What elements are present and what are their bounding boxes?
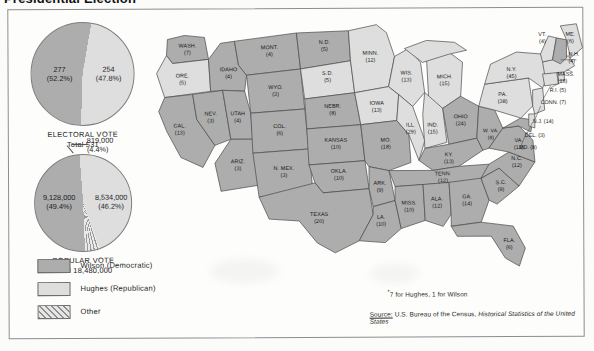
svg-text:UTAH: UTAH [230,110,245,116]
legend-swatch-wilson [37,258,70,272]
state-label-new-hampshire: N.H. [568,51,579,57]
svg-text:(29): (29) [406,128,416,134]
svg-text:N.Y.: N.Y. [506,66,516,72]
state-label-indiana: IND.(15) [427,121,438,134]
svg-text:(13): (13) [175,129,185,135]
svg-text:(4): (4) [225,73,232,79]
svg-text:MISS.: MISS. [402,199,417,205]
svg-text:(12): (12) [365,57,375,63]
svg-text:OHIO: OHIO [454,113,468,119]
state-label-new-york: N.Y.(45) [506,66,516,79]
svg-text:FLA.: FLA. [503,237,515,243]
svg-text:(6): (6) [567,38,574,44]
popular-other-leader-diagonal [66,145,73,153]
svg-text:IOWA: IOWA [369,100,384,106]
svg-text:KANSAS: KANSAS [325,137,348,143]
source-prefix: Source: [370,311,393,318]
svg-text:ARIZ.: ARIZ. [231,158,245,164]
scan-artifact-2 [369,263,419,283]
svg-text:(4): (4) [539,38,546,44]
svg-text:MO.: MO. [381,137,392,143]
svg-text:N.D.: N.D. [319,39,330,45]
svg-text:(3): (3) [281,172,288,178]
legend-label-other: Other [81,307,101,316]
popular-wilson-label: 9,128,000(49.4%) [31,193,87,211]
state-label-delaware: DEL. (3) [525,132,545,138]
svg-text:MICH.: MICH. [437,73,453,79]
svg-text:WYO.: WYO. [268,84,283,90]
svg-text:OKLA.: OKLA. [331,168,347,174]
svg-text:N. MEX.: N. MEX. [274,165,295,171]
svg-text:(13): (13) [372,107,382,113]
svg-text:(3): (3) [272,91,279,97]
legend-swatch-other [38,304,71,318]
source-line: Source: U.S. Bureau of the Census, Histo… [370,310,584,325]
electoral-hughes-label: 254(47.8%) [87,65,131,83]
state-label-missouri: MO.(18) [381,137,392,150]
map-frame: 277(52.2%) 254(47.8%) ELECTORAL VOTE Tot… [7,7,584,340]
state-label-massachusetts: MASS. [558,71,575,77]
svg-text:(20): (20) [314,218,324,224]
svg-text:(4): (4) [266,51,273,57]
svg-text:(3): (3) [207,117,214,123]
election-map-page: Presidential Election 277(52.2%) 254(47.… [0,0,594,351]
svg-text:(13): (13) [402,76,412,82]
svg-text:(10): (10) [331,144,341,150]
state-florida [451,222,525,266]
svg-text:(9): (9) [377,187,384,193]
svg-text:(10): (10) [404,206,414,212]
state-label-california: CAL.(13) [174,122,186,135]
legend-swatch-hughes [37,281,70,295]
state-label-illinois: ILL.(29) [406,121,416,134]
footnote: *7 for Hughes, 1 for Wilson [388,288,468,297]
state-label-maryland: MD. (8) [519,144,537,150]
svg-text:COL.: COL. [273,123,286,129]
svg-text:VT.: VT. [538,31,546,37]
popular-other-leader [72,144,88,145]
svg-text:(45): (45) [507,73,517,79]
svg-text:MINN.: MINN. [363,50,379,56]
svg-text:(6): (6) [506,244,513,250]
state-label-georgia: GA.(14) [462,193,472,206]
svg-text:TEXAS: TEXAS [310,211,329,217]
svg-text:(4): (4) [234,117,241,123]
svg-text:IDAHO: IDAHO [220,66,238,72]
us-election-map: WASH.(7) ORE.(5) CAL.(13) NEV.(3) IDAHO(… [136,14,585,288]
svg-text:ALA.: ALA. [431,195,443,201]
svg-text:WIS.: WIS. [401,69,413,75]
svg-text:WASH.: WASH. [178,42,196,48]
svg-text:MONT.: MONT. [261,44,278,50]
svg-text:IND.: IND. [427,121,438,127]
svg-text:PA.: PA. [498,91,507,97]
svg-text:KY.: KY. [445,151,453,157]
svg-text:(13): (13) [444,158,454,164]
svg-text:(8): (8) [329,110,336,116]
page-title: Presidential Election [4,0,136,6]
popular-other-callout: 819,000(4.4%) [87,136,113,154]
svg-text:NEBR.: NEBR. [324,103,341,109]
svg-text:(7): (7) [184,49,191,55]
legend-item-other: Other [38,300,156,324]
svg-text:(14): (14) [462,200,472,206]
svg-text:(12): (12) [438,177,448,183]
svg-text:N.C.: N.C. [511,155,522,161]
state-label-vermont: VT.(4) [538,31,546,44]
svg-text:(6): (6) [276,130,283,136]
svg-text:(12): (12) [512,162,522,168]
source-agency: U.S. Bureau of the Census, [393,310,477,317]
electoral-wilson-label: 277(52.2%) [38,65,82,83]
svg-text:(9): (9) [498,186,505,192]
svg-text:GA.: GA. [462,193,472,199]
svg-text:(3): (3) [235,165,242,171]
state-label-louisiana: LA.(10) [376,214,386,227]
svg-text:ME.: ME. [565,31,575,37]
svg-text:(5): (5) [324,77,331,83]
electoral-pie: 277(52.2%) 254(47.8%) [30,22,134,126]
state-label-new-jersey: N.J. (14) [533,118,554,124]
state-label-pennsylvania: PA.(38) [498,91,508,104]
svg-text:CAL.: CAL. [174,122,186,128]
popular-pie: 9,128,000(49.4%) 8,534,000(46.2%) [34,154,132,252]
svg-text:NEV.: NEV. [204,110,217,116]
state-label-north-carolina: N.C.(12) [511,155,522,168]
svg-text:S.C.: S.C. [496,179,507,185]
